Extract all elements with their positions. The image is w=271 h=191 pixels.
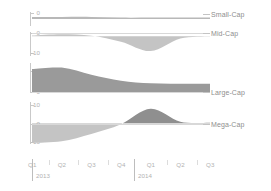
area-path-small-cap [32,8,210,30]
x-axis: 2013 2014 Q1Q2Q3Q4Q1Q2Q3 [0,157,271,191]
leader-line-large-cap [203,92,210,93]
year-label-2013: 2013 [36,173,50,179]
series-label-small-cap: Small-Cap [211,11,245,18]
leader-line-mega-cap [203,124,210,125]
quarter-tick [197,160,198,165]
quarter-label: Q3 [87,162,95,168]
quarter-label: Q1 [147,162,155,168]
quarter-tick [78,160,79,165]
zero-line-mega-cap [32,124,210,125]
leader-line-mid-cap [203,33,210,34]
year-divider-2014 [134,159,135,181]
area-path-mega-cap [32,100,210,150]
multi-panel-area-chart: 0 Small-Cap 0 -10 Mid-Cap 10 [0,0,271,191]
zero-line-large-cap [32,92,210,93]
area-path-large-cap [32,62,210,96]
quarter-label: Q3 [206,162,214,168]
series-label-mega-cap: Mega-Cap [211,121,244,128]
series-label-mid-cap: Mid-Cap [211,30,238,37]
quarter-tick [108,160,109,165]
zero-line-mid-cap [32,33,210,34]
area-path-mid-cap [32,30,210,58]
plot-area-mega-cap [32,100,210,150]
quarter-tick [49,160,50,165]
quarter-label: Q1 [28,162,36,168]
quarter-label: Q2 [58,162,66,168]
leader-line-small-cap [203,14,210,15]
quarter-label: Q4 [117,162,125,168]
plot-area-mid-cap [32,30,210,58]
plot-area-small-cap [32,8,210,30]
quarter-tick [167,160,168,165]
plot-area-large-cap [32,62,210,96]
quarter-label: Q2 [176,162,184,168]
year-label-2014: 2014 [138,173,152,179]
series-label-large-cap: Large-Cap [211,89,245,96]
